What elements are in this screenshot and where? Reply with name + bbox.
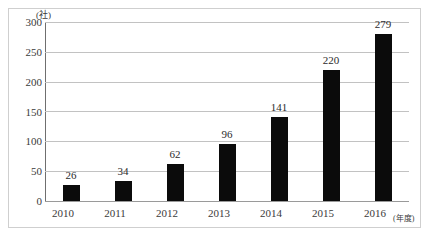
gridline-100 <box>45 141 409 142</box>
y-tick-200: 200 <box>12 77 42 88</box>
bar-value-2013: 96 <box>205 129 249 140</box>
y-axis-tick-labels: 300 250 200 150 100 50 0 <box>8 0 42 238</box>
chart-screenshot: (社) 300 250 200 150 100 50 0 26 34 62 96… <box>0 0 430 238</box>
bar-value-2010: 26 <box>49 170 93 181</box>
cropped-title <box>150 0 310 3</box>
x-tick-2011: 2011 <box>89 207 141 219</box>
x-tick-2014: 2014 <box>245 207 297 219</box>
y-tick-100: 100 <box>12 136 42 147</box>
x-tick-2013: 2013 <box>193 207 245 219</box>
bar-2016 <box>375 34 392 201</box>
x-tick-2012: 2012 <box>141 207 193 219</box>
gridline-150 <box>45 111 409 112</box>
y-tick-0: 0 <box>12 196 42 207</box>
plot-area: 26 34 62 96 141 220 279 <box>45 22 409 201</box>
gridline-250 <box>45 52 409 53</box>
y-tick-300: 300 <box>12 17 42 28</box>
bar-2012 <box>167 164 184 201</box>
x-tick-2010: 2010 <box>37 207 89 219</box>
bar-2010 <box>63 185 80 201</box>
y-tick-250: 250 <box>12 47 42 58</box>
bar-2011 <box>115 181 132 201</box>
bar-value-2011: 34 <box>101 166 145 177</box>
bar-value-2014: 141 <box>257 102 301 113</box>
gridline-300 <box>45 22 409 23</box>
y-tick-50: 50 <box>12 166 42 177</box>
gridline-200 <box>45 82 409 83</box>
bar-2013 <box>219 144 236 201</box>
bar-value-2012: 62 <box>153 149 197 160</box>
y-tick-150: 150 <box>12 107 42 118</box>
x-axis-unit-label: (年度) <box>393 214 414 223</box>
gridline-baseline-0 <box>45 201 409 202</box>
bar-2014 <box>271 117 288 201</box>
bar-2015 <box>323 70 340 201</box>
x-tick-2015: 2015 <box>297 207 349 219</box>
bar-value-2015: 220 <box>309 55 353 66</box>
bar-value-2016: 279 <box>361 19 405 30</box>
